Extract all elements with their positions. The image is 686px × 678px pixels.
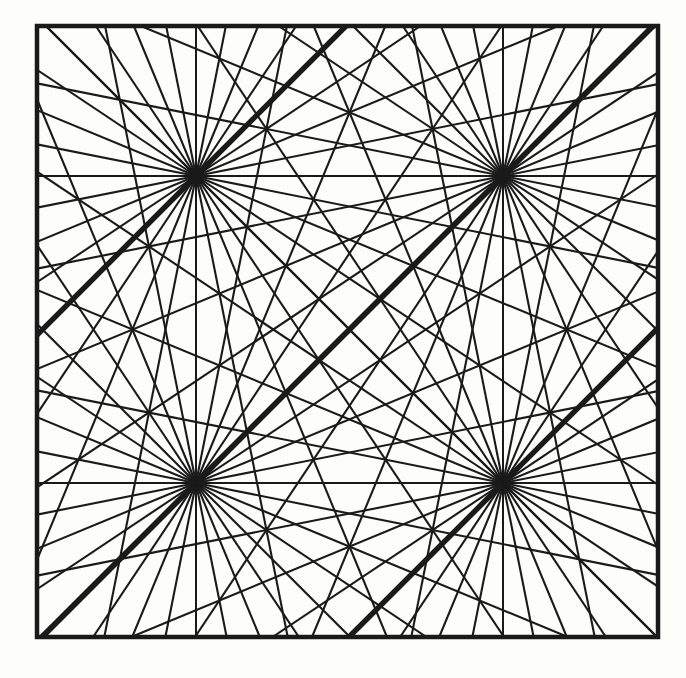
starburst-pattern-svg xyxy=(0,0,686,678)
figure-canvas xyxy=(0,0,686,678)
